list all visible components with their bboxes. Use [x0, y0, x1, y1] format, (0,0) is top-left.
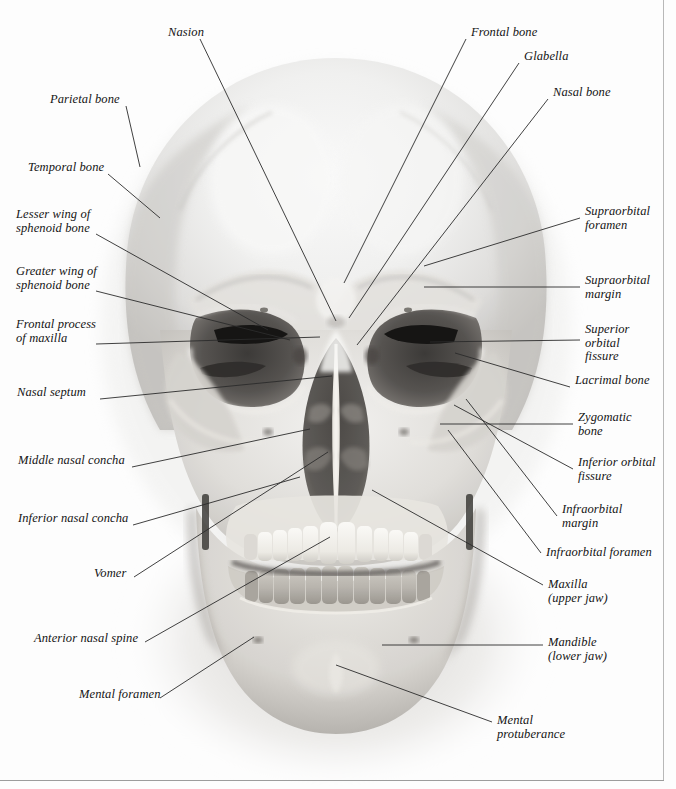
leader-line-middle-nasal-concha	[132, 429, 310, 467]
label-mental-foramen: Mental foramen	[79, 688, 161, 702]
leader-line-mental-foramen	[160, 637, 254, 698]
label-glabella: Glabella	[524, 50, 569, 64]
label-lacrimal-bone: Lacrimal bone	[575, 374, 650, 388]
label-parietal-bone: Parietal bone	[50, 93, 120, 107]
leader-line-glabella	[349, 63, 519, 318]
label-nasal-septum: Nasal septum	[17, 386, 86, 400]
leader-line-vomer	[134, 452, 328, 577]
leader-line-nasal-bone	[357, 99, 548, 345]
label-inferior-orbital-fissure: Inferior orbital fissure	[578, 456, 656, 483]
leader-line-frontal-bone	[344, 39, 466, 283]
label-mental-protuberance: Mental protuberance	[497, 714, 565, 741]
label-inferior-nasal-concha: Inferior nasal concha	[18, 512, 128, 526]
label-middle-nasal-concha: Middle nasal concha	[18, 454, 125, 468]
leader-line-infraorbital-foramen	[448, 430, 541, 553]
leader-lines-layer	[0, 0, 676, 789]
leader-line-nasion	[200, 39, 336, 321]
leader-line-maxilla	[372, 490, 543, 585]
label-superior-orbital-fissure: Superior orbital fissure	[585, 323, 630, 364]
label-mandible: Mandible (lower jaw)	[548, 636, 607, 663]
leader-line-inferior-nasal-concha	[133, 477, 300, 525]
label-infraorbital-foramen: Infraorbital foramen	[546, 546, 652, 560]
leader-line-lacrimal-bone	[455, 353, 570, 387]
label-greater-wing-sphenoid: Greater wing of sphenoid bone	[16, 265, 97, 292]
label-vomer: Vomer	[94, 567, 126, 581]
label-infraorbital-margin: Infraorbital margin	[562, 503, 622, 530]
label-zygomatic-bone: Zygomatic bone	[578, 411, 632, 438]
label-supraorbital-foramen: Supraorbital foramen	[585, 205, 650, 232]
skull-anatomy-figure: NasionFrontal boneGlabellaParietal boneN…	[0, 0, 676, 789]
label-temporal-bone: Temporal bone	[28, 161, 104, 175]
leader-line-infraorbital-margin	[466, 399, 557, 516]
leader-line-nasal-septum	[100, 376, 332, 399]
frame-border-right	[663, 0, 664, 781]
label-frontal-process-maxilla: Frontal process of maxilla	[16, 318, 96, 345]
leader-line-supraorbital-foramen	[424, 218, 580, 266]
label-frontal-bone: Frontal bone	[471, 26, 537, 40]
leader-line-greater-wing-sphenoid	[96, 291, 290, 340]
label-maxilla: Maxilla (upper jaw)	[548, 578, 608, 605]
label-supraorbital-margin: Supraorbital margin	[585, 274, 650, 301]
leader-line-temporal-bone	[108, 174, 160, 218]
leader-line-mental-protuberance	[336, 665, 492, 722]
leader-line-lesser-wing-sphenoid	[96, 234, 268, 330]
leader-line-superior-orbital-fissure	[430, 340, 580, 342]
frame-border-bottom	[0, 780, 664, 781]
leader-line-frontal-process-maxilla	[96, 337, 320, 344]
label-anterior-nasal-spine: Anterior nasal spine	[34, 632, 138, 646]
label-lesser-wing-sphenoid: Lesser wing of sphenoid bone	[16, 208, 90, 235]
label-nasion: Nasion	[168, 26, 204, 40]
leader-line-parietal-bone	[126, 106, 140, 167]
leader-line-anterior-nasal-spine	[145, 537, 330, 642]
label-nasal-bone: Nasal bone	[553, 86, 611, 100]
